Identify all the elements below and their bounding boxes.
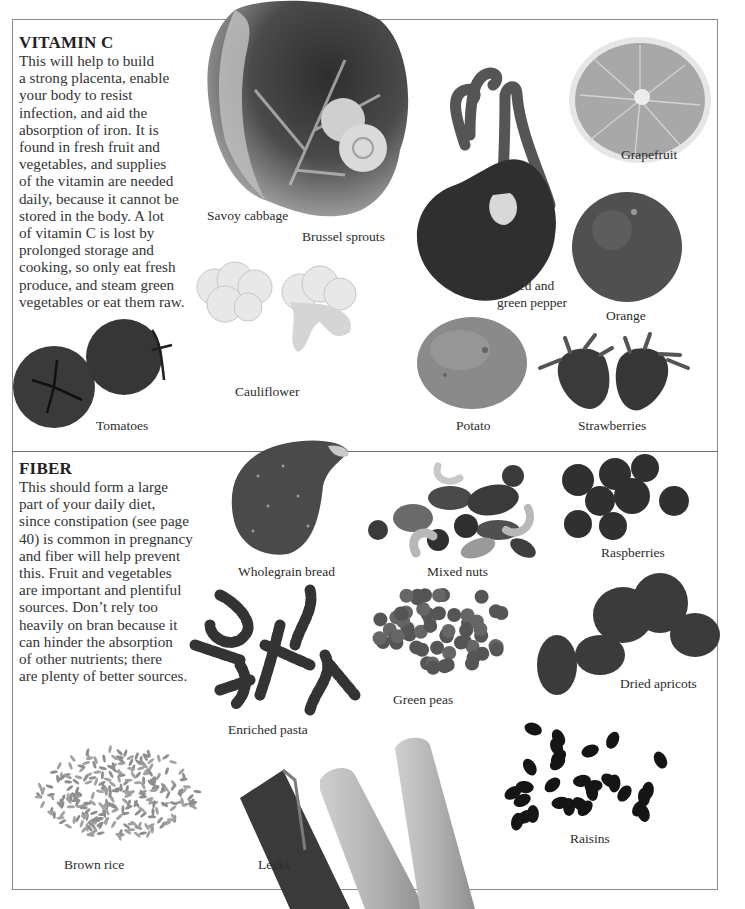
label-pepper-line-2: green pepper xyxy=(497,294,567,311)
text-line: since constipation (see page xyxy=(19,512,193,529)
text-line: of vitamin C is lost by xyxy=(19,224,185,241)
label-green-peas: Green peas xyxy=(393,692,453,708)
label-raspberries: Raspberries xyxy=(601,545,665,561)
cauliflower-image xyxy=(190,262,360,372)
text-line: part of your daily diet, xyxy=(19,495,193,512)
label-tomatoes: Tomatoes xyxy=(96,418,148,434)
text-line: This should form a large xyxy=(19,478,193,495)
enriched-pasta-image xyxy=(190,585,365,725)
text-line: of the vitamin are needed xyxy=(19,172,185,189)
label-savoy-cabbage: Savoy cabbage xyxy=(207,208,288,224)
label-brussel-sprouts: Brussel sprouts xyxy=(302,229,385,245)
text-line: produce, and steam green xyxy=(19,276,185,293)
leeks-image xyxy=(235,730,475,909)
text-line: your body to resist xyxy=(19,86,185,103)
text-line: sources. Don’t rely too xyxy=(19,598,193,615)
vitamin-c-text: This will help to build a strong placent… xyxy=(19,52,185,310)
mixed-nuts-image xyxy=(368,458,538,558)
label-potato: Potato xyxy=(456,418,491,434)
brown-rice-image xyxy=(28,745,208,845)
text-line: cooking, so only eat fresh xyxy=(19,258,185,275)
strawberries-image xyxy=(540,330,690,415)
text-line: stored in the body. A lot xyxy=(19,207,185,224)
fiber-heading: FIBER xyxy=(19,459,72,479)
savoy-cabbage-image xyxy=(195,0,415,235)
vitamin-c-heading: VITAMIN C xyxy=(19,33,114,53)
label-raisins: Raisins xyxy=(570,831,610,847)
text-line: this. Fruit and vegetables xyxy=(19,564,193,581)
section-divider xyxy=(12,451,718,452)
text-line: infection, and aid the xyxy=(19,104,185,121)
label-dried-apricots: Dried apricots xyxy=(620,676,697,692)
label-leeks: Leeks xyxy=(258,857,290,873)
raisins-image xyxy=(495,720,675,835)
raspberries-image xyxy=(560,456,690,541)
text-line: absorption of iron. It is xyxy=(19,121,185,138)
tomatoes-image xyxy=(12,305,172,435)
orange-image xyxy=(570,190,685,305)
text-line: heavily on bran because it xyxy=(19,616,193,633)
label-orange: Orange xyxy=(606,308,646,324)
label-strawberries: Strawberries xyxy=(578,418,646,434)
text-line: and fiber will help prevent xyxy=(19,547,193,564)
label-brown-rice: Brown rice xyxy=(64,857,124,873)
text-line: prolonged storage and xyxy=(19,241,185,258)
green-peas-image xyxy=(360,578,530,688)
text-line: 40) is common in pregnancy xyxy=(19,530,193,547)
label-wholegrain-bread: Wholegrain bread xyxy=(238,564,335,580)
text-line: found in fresh fruit and xyxy=(19,138,185,155)
text-line: a strong placenta, enable xyxy=(19,69,185,86)
label-pepper: Red and green pepper xyxy=(497,277,567,311)
text-line: vegetables, and supplies xyxy=(19,155,185,172)
wholegrain-bread-image xyxy=(228,436,353,561)
text-line: of other nutrients; there xyxy=(19,650,193,667)
pepper-image xyxy=(405,55,565,305)
label-pepper-line-1: Red and xyxy=(497,277,567,294)
fiber-text: This should form a large part of your da… xyxy=(19,478,193,684)
text-line: can hinder the absorption xyxy=(19,633,193,650)
text-line: are plenty of better sources. xyxy=(19,667,193,684)
potato-image xyxy=(415,315,530,415)
label-grapefruit: Grapefruit xyxy=(621,147,677,163)
text-line: are important and plentiful xyxy=(19,581,193,598)
text-line: This will help to build xyxy=(19,52,185,69)
label-cauliflower: Cauliflower xyxy=(235,384,299,400)
text-line: daily, because it cannot be xyxy=(19,190,185,207)
